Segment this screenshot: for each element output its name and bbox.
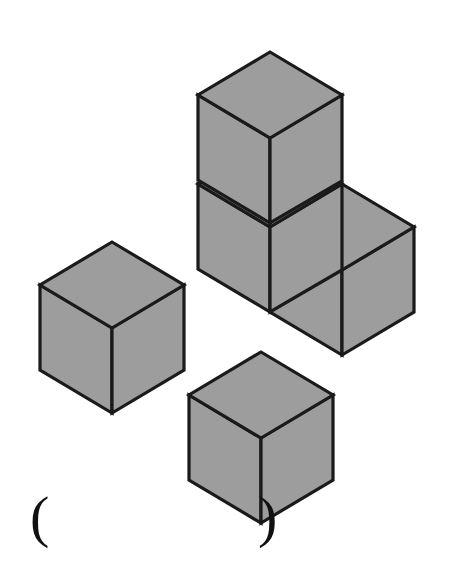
answer-blank[interactable]: ( ) <box>30 482 180 552</box>
single-cube-left <box>40 242 184 413</box>
l-shaped-stack <box>198 52 414 355</box>
